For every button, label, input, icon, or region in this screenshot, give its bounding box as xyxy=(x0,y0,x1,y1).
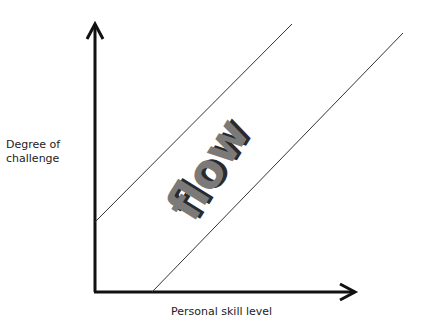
y-axis-label-line1: Degree of xyxy=(6,138,60,152)
flow-wordart: flow flow xyxy=(155,106,264,232)
x-axis xyxy=(94,284,355,300)
y-axis xyxy=(87,24,103,292)
x-axis-label: Personal skill level xyxy=(171,305,272,318)
flow-diagram: flow flow xyxy=(0,0,424,331)
y-axis-label-line2: challenge xyxy=(6,152,60,166)
y-axis-label: Degree of challenge xyxy=(6,138,60,166)
